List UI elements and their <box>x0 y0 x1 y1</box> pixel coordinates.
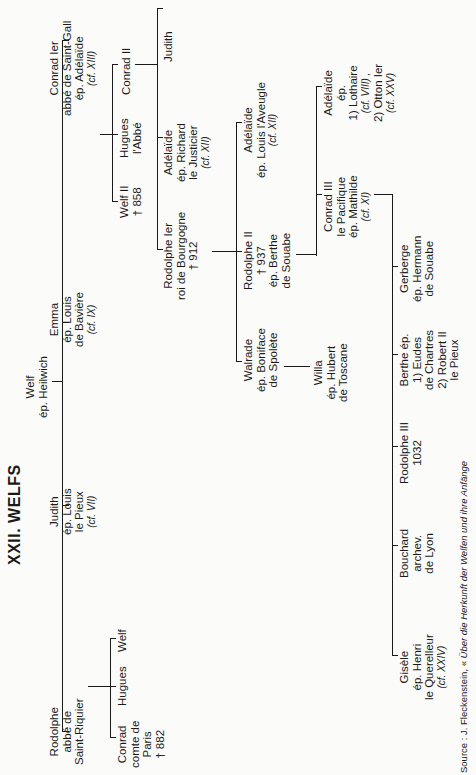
node-line: Conrad III <box>322 175 335 238</box>
node-rodolphe-1er: Rodolphe Ier roi de Bourgogne † 912 <box>162 212 200 300</box>
node-line: Adélaïde <box>162 123 175 182</box>
node-line: ép. Henri <box>411 634 424 700</box>
node-line: † 937 <box>255 231 268 290</box>
connector <box>316 86 317 256</box>
connector <box>374 194 392 195</box>
node-emma: Emma ép. Louis de Bavière (cf. IX) <box>48 292 98 347</box>
node-line: ép. Louis l'Aveugle <box>255 82 268 178</box>
node-line: Hugues <box>116 666 129 706</box>
node-line: Judith <box>48 488 61 535</box>
node-line: Bouchard <box>398 529 411 578</box>
node-line: ép. Richard <box>175 123 188 182</box>
node-rodolphe-saint-riquier: Rodolphe abbé de Saint-Riquier <box>48 699 86 765</box>
node-hugues: Hugues <box>116 666 129 706</box>
node-line: 2) Robert II <box>436 330 449 390</box>
node-adelaide-richard: Adélaïde ép. Richard le Justicier (cf. X… <box>162 123 212 182</box>
source-title: Über die Herkunft der Welfen und ihre An… <box>458 461 469 659</box>
cross-reference: (cf. XII) <box>267 82 280 178</box>
node-line: de Toscane <box>337 343 350 402</box>
node-judith-2: Judith <box>162 31 175 62</box>
node-line: ép. Hermann <box>411 236 424 302</box>
cross-reference: (cf. XIII) <box>86 21 99 116</box>
cross-reference: (cf. XII) <box>200 123 213 182</box>
node-line: le Pacifique <box>335 175 348 238</box>
node-line: † 912 <box>187 212 200 300</box>
connector <box>157 8 158 250</box>
node-rodolphe-ii: Rodolphe II † 937 ép. Berthe de Souabe <box>242 231 292 290</box>
node-line: Adélaïde <box>322 64 335 122</box>
source-prefix: Source : J. Fleckenstein, « <box>458 658 469 773</box>
node-line: 1) Lothaire <box>347 64 360 122</box>
node-line: Welf <box>24 356 37 418</box>
node-line: Berthe ép. <box>398 330 411 390</box>
node-gisele: Gisèle ép. Henri le Querelleur (cf. XXIV… <box>398 634 448 700</box>
node-judith: Judith ép. Louis le Pieux (cf. VII) <box>48 488 98 535</box>
node-berthe: Berthe ép. 1) Eudes de Chartres 2) Rober… <box>398 330 461 390</box>
node-conrad-1er: Conrad Ier abbé de Saint-Gall ép. Adélaï… <box>48 21 98 116</box>
connector <box>284 366 310 367</box>
node-line: Rodolphe Ier <box>162 212 175 300</box>
node-line: de Bavière <box>73 292 86 347</box>
node-line: Gerberge <box>398 236 411 302</box>
cross-reference: (cf. XXIV) <box>436 634 449 700</box>
node-walrade: Walrade ép. Boniface de Spolète <box>242 328 280 392</box>
node-line: Judith <box>162 31 175 62</box>
node-line: archev. <box>411 529 424 578</box>
node-line: † 858 <box>131 186 144 218</box>
node-line: Rodolphe II <box>242 231 255 290</box>
node-line: ép. Boniface <box>255 328 268 392</box>
node-welf-root: Welf ép. Heilwich <box>24 356 49 418</box>
node-line: de Lyon <box>423 529 436 578</box>
node-line: 2) Otton Ier <box>372 64 385 122</box>
node-conrad-iii: Conrad III le Pacifique ép. Mathilde (cf… <box>322 175 372 238</box>
node-adelaide-otton: Adélaïde ép. 1) Lothaire (cf. VIII) , 2)… <box>322 64 397 122</box>
node-gerberge: Gerberge ép. Hermann de Souabe <box>398 236 436 302</box>
node-line: de Souabe <box>280 231 293 290</box>
node-welf-ii: Welf II † 858 <box>118 186 143 218</box>
node-adelaide-louis: Adélaïde ép. Louis l'Aveugle (cf. XII) <box>242 82 280 178</box>
node-willa: Willa ép. Hubert de Toscane <box>312 343 350 402</box>
connector <box>212 251 236 252</box>
node-line: 1) Eudes <box>411 330 424 390</box>
connector <box>135 64 157 65</box>
node-line: † 882 <box>154 721 167 768</box>
cross-reference: (cf. XI) <box>360 175 373 238</box>
node-line: de Chartres <box>423 330 436 390</box>
node-line: roi de Bourgogne <box>175 212 188 300</box>
node-line: le Querelleur <box>423 634 436 700</box>
connector <box>88 686 110 687</box>
node-line: Conrad Ier <box>48 21 61 116</box>
node-line: ép. <box>335 64 348 122</box>
node-line: Paris <box>141 721 154 768</box>
node-line: comte de <box>129 721 142 768</box>
node-line: Saint-Riquier <box>73 699 86 765</box>
node-line: ép. Mathilde <box>347 175 360 238</box>
node-line: ép. Hubert <box>325 343 338 402</box>
node-line: l'Abbé <box>131 118 144 158</box>
node-conrad-comte-paris: Conrad comte de Paris † 882 <box>116 721 166 768</box>
node-line: abbé de Saint-Gall <box>61 21 74 116</box>
node-line: Rodolphe <box>48 699 61 765</box>
node-line: le Pieux <box>448 330 461 390</box>
node-line: Gisèle <box>398 634 411 700</box>
source-citation: Source : J. Fleckenstein, « Über die Her… <box>458 461 469 773</box>
node-line: Adélaïde <box>242 82 255 178</box>
node-line: ép. Heilwich <box>37 356 50 418</box>
node-line: Emma <box>48 292 61 347</box>
node-line: de Spolète <box>267 328 280 392</box>
node-line: Walrade <box>242 328 255 392</box>
cross-reference: (cf. IX) <box>86 292 99 347</box>
node-line: ép. Berthe <box>267 231 280 290</box>
connector <box>52 381 62 382</box>
diagram-title: XXII. WELFS <box>6 464 24 565</box>
connector <box>392 194 393 656</box>
node-line: abbé de <box>61 699 74 765</box>
node-line: Hugues <box>118 118 131 158</box>
node-line: de Souabe <box>423 236 436 302</box>
cross-reference: (cf. VIII) , <box>360 64 373 122</box>
connector <box>112 64 118 65</box>
node-welf: Welf <box>116 629 129 652</box>
node-line: Conrad <box>116 721 129 768</box>
connector <box>236 122 237 362</box>
node-conrad-ii: Conrad II <box>120 48 133 95</box>
